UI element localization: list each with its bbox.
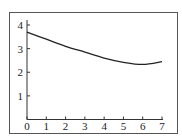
x-tick-label: 3 (82, 120, 88, 132)
x-tick-label: 4 (101, 120, 107, 132)
x-ticks: 01234567 (24, 117, 165, 133)
x-tick-label: 0 (24, 120, 30, 132)
x-tick-label: 6 (140, 120, 146, 132)
y-tick-label: 4 (18, 19, 24, 31)
y-ticks: 1234 (18, 19, 31, 102)
x-tick-label: 2 (63, 120, 69, 132)
y-tick-label: 2 (18, 66, 24, 78)
x-tick-label: 1 (44, 120, 50, 132)
x-tick-label: 7 (159, 120, 165, 132)
chart-frame (10, 13, 178, 134)
x-tick-label: 5 (121, 120, 127, 132)
y-tick-label: 3 (18, 43, 24, 55)
chart: 01234567 1234 (0, 0, 182, 140)
data-line (27, 32, 162, 64)
y-tick-label: 1 (18, 90, 24, 102)
